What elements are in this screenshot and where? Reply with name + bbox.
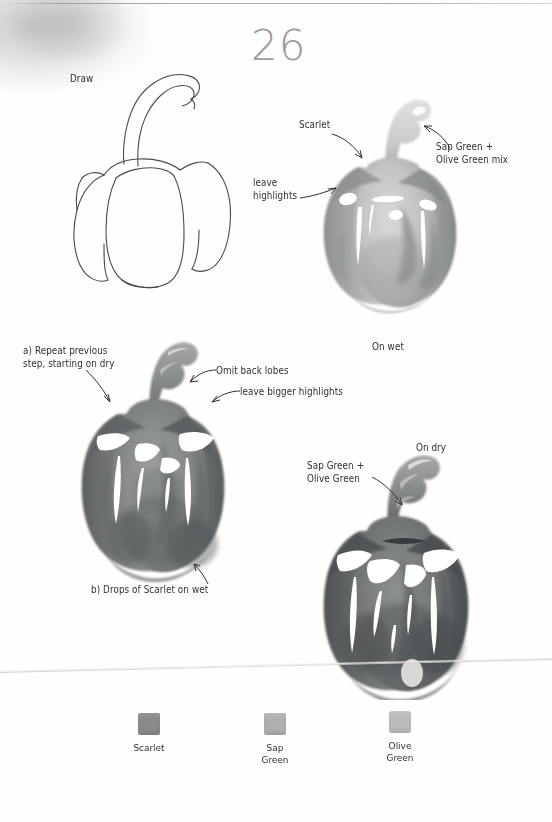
annotation-scarlet: Scarlet bbox=[299, 118, 330, 131]
annotation-leave-highlights: leave highlights bbox=[253, 176, 297, 202]
annotation-leave-bigger-highlights: leave bigger highlights bbox=[240, 385, 343, 398]
annotation-draw: Draw bbox=[70, 72, 93, 85]
swatch-scarlet: Scarlet bbox=[89, 713, 209, 754]
swatch-chip-sap-green bbox=[264, 713, 286, 735]
leader-omit-back-lobes bbox=[178, 366, 218, 390]
swatch-label-olive-green: Olive Green bbox=[344, 740, 457, 763]
color-palette: Scarlet Sap Green Olive Green bbox=[0, 713, 552, 803]
swatch-chip-olive-green bbox=[389, 711, 411, 733]
pepper-line-drawing bbox=[42, 58, 242, 298]
annotation-repeat-previous: a) Repeat previous step, starting on dry bbox=[23, 344, 114, 370]
swatch-olive-green: Olive Green bbox=[340, 711, 460, 763]
page-number: 26 bbox=[251, 21, 306, 70]
annotation-omit-back-lobes: Omit back lobes bbox=[216, 364, 289, 377]
leader-leave-highlights bbox=[300, 184, 344, 208]
swatch-label-sap-green: Sap Green bbox=[219, 742, 332, 765]
page-top-rule bbox=[0, 3, 552, 4]
paper-smudge-top-left-secondary bbox=[10, 0, 130, 60]
caption-on-dry: On dry bbox=[408, 441, 455, 454]
leader-scarlet bbox=[330, 128, 376, 168]
leader-leave-bigger-highlights bbox=[198, 388, 242, 410]
swatch-label-scarlet: Scarlet bbox=[93, 742, 206, 754]
swatch-chip-scarlet bbox=[138, 713, 160, 735]
annotation-sap-olive: Sap Green + Olive Green bbox=[307, 459, 364, 485]
leader-drops-scarlet bbox=[186, 562, 212, 586]
caption-on-wet: On wet bbox=[360, 340, 416, 353]
tutorial-page: 26 Draw bbox=[0, 0, 552, 822]
leader-sap-olive bbox=[372, 477, 412, 513]
swatch-sap-green: Sap Green bbox=[215, 713, 335, 765]
leader-repeat-previous bbox=[82, 368, 120, 408]
leader-sap-olive-mix bbox=[410, 120, 454, 154]
